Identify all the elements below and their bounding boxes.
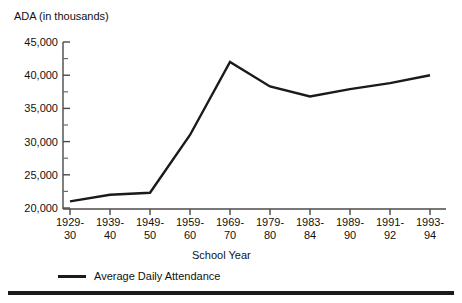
x-tick-label-line1: 1969- (209, 216, 251, 229)
x-tick-label-1989-90: 1989- 90 (329, 216, 371, 242)
chart-figure: ADA (in thousands) 45,000 40,000 35,000 … (0, 0, 462, 303)
x-tick-label-line2: 90 (329, 229, 371, 242)
x-tick-label-1949-50: 1949- 50 (129, 216, 171, 242)
x-tick-label-1929-30: 1929- 30 (49, 216, 91, 242)
x-tick-label-line1: 1989- (329, 216, 371, 229)
x-tick-label-1939-40: 1939- 40 (89, 216, 131, 242)
x-tick-label-line1: 1929- (49, 216, 91, 229)
x-tick-label-line2: 70 (209, 229, 251, 242)
x-tick-label-1983-84: 1983- 84 (289, 216, 331, 242)
x-tick-label-line1: 1983- (289, 216, 331, 229)
x-tick-label-line1: 1959- (169, 216, 211, 229)
legend-line-swatch (58, 275, 86, 278)
x-tick-label-1959-60: 1959- 60 (169, 216, 211, 242)
x-tick-label-1979-80: 1979- 80 (249, 216, 291, 242)
data-series-average-daily-attendance (70, 62, 430, 201)
x-tick-label-line1: 1991- (369, 216, 411, 229)
x-tick-label-line2: 40 (89, 229, 131, 242)
x-tick-label-1969-70: 1969- 70 (209, 216, 251, 242)
chart-legend: Average Daily Attendance (58, 270, 220, 283)
x-tick-label-line2: 50 (129, 229, 171, 242)
x-tick-label-line1: 1949- (129, 216, 171, 229)
x-tick-label-line1: 1939- (89, 216, 131, 229)
x-tick-label-line2: 94 (409, 229, 451, 242)
x-tick-label-line2: 92 (369, 229, 411, 242)
x-tick-label-1991-92: 1991- 92 (369, 216, 411, 242)
x-tick-label-line1: 1993- (409, 216, 451, 229)
x-tick-label-line1: 1979- (249, 216, 291, 229)
y-minor-ticks (63, 59, 68, 192)
bottom-divider-rule (8, 291, 454, 295)
x-tick-label-line2: 84 (289, 229, 331, 242)
x-tick-label-1993-94: 1993- 94 (409, 216, 451, 242)
x-tick-label-line2: 80 (249, 229, 291, 242)
x-tick-label-line2: 60 (169, 229, 211, 242)
x-tick-label-line2: 30 (49, 229, 91, 242)
legend-item-label: Average Daily Attendance (94, 270, 220, 283)
x-ticks (70, 209, 430, 215)
x-axis-title: School Year (192, 249, 251, 262)
